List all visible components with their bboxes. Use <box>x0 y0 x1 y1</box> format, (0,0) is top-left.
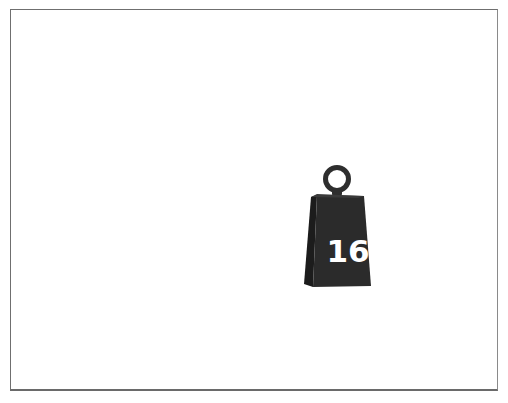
weight-16[interactable]: 16 <box>300 162 376 292</box>
weight-label: 16 <box>326 233 369 269</box>
weight-icon: 16 <box>300 162 376 292</box>
ring-icon <box>326 168 349 191</box>
canvas-frame <box>10 9 498 391</box>
